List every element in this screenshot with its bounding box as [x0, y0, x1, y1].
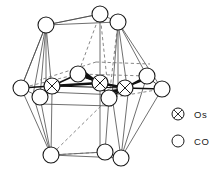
atom-co [92, 6, 108, 22]
legend-label-co: CO [194, 136, 209, 147]
atom-co [113, 150, 129, 166]
atom-co [13, 80, 29, 96]
legend-label-os: Os [194, 109, 207, 120]
crossed-circle-icon [172, 108, 184, 120]
metal-bonds-bold [52, 83, 125, 88]
open-circle-icon [172, 135, 184, 147]
figure-container: Os CO [0, 0, 221, 171]
atom-co [110, 14, 126, 30]
atom-co [38, 17, 54, 33]
atom-co [97, 144, 113, 160]
atom-co [154, 81, 170, 97]
atom-os [117, 80, 133, 96]
atom-co [43, 147, 59, 163]
atom-co [101, 90, 117, 106]
legend: Os CO [172, 108, 209, 147]
legend-item-co: CO [172, 135, 209, 147]
ligand-atoms [13, 6, 170, 166]
molecular-structure-figure: Os CO [0, 0, 221, 171]
atom-co [70, 66, 86, 82]
legend-item-os: Os [172, 108, 207, 120]
atom-os [92, 75, 108, 91]
atom-os [44, 78, 60, 94]
atom-co [139, 68, 155, 84]
